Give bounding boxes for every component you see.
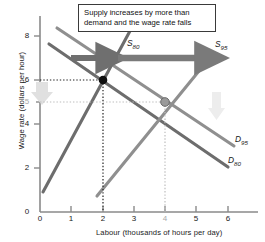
x-axis-title: Labour (thousands of hours per day) — [96, 228, 222, 237]
x-tick-label-3: 3 — [127, 214, 141, 223]
x-tick-label-4: 4 — [158, 214, 172, 223]
curve-label-D80-sub: 80 — [234, 160, 241, 167]
curve-label-S80: S80 — [127, 38, 139, 50]
initial-equilibrium-point — [99, 76, 108, 85]
x-tick-label-6: 6 — [221, 214, 235, 223]
curve-label-D95: D95 — [235, 134, 248, 146]
y-tick-label-0: 0 — [20, 207, 34, 216]
curve-label-S80-sub: 80 — [133, 43, 140, 50]
callout-line-2: demand and the wage rate falls — [84, 18, 211, 28]
callout-line-1: Supply increases by more than — [84, 8, 211, 18]
curve-label-S95-sub: 95 — [221, 44, 228, 51]
chart-plot-area — [0, 0, 265, 242]
x-tick-label-0: 0 — [33, 214, 47, 223]
new-equilibrium-point — [161, 98, 170, 107]
annotation-callout-box: Supply increases by more than demand and… — [78, 4, 216, 32]
curve-D80 — [49, 44, 228, 167]
curve-label-D95-sub: 95 — [241, 139, 248, 146]
curve-label-D80: D80 — [228, 155, 241, 167]
supply-demand-chart: 8 6 5 4 2 0 0 1 2 3 4 5 6 Wage rate (dol… — [0, 0, 265, 242]
wage-fall-arrow — [31, 82, 53, 105]
x-axis-ticks — [71, 206, 228, 212]
y-axis-ticks — [34, 36, 40, 168]
x-tick-label-1: 1 — [64, 214, 78, 223]
wage-fall-arrow-right — [208, 92, 225, 120]
x-tick-label-5: 5 — [189, 214, 203, 223]
y-axis-title: Wage rate (dollars per hour) — [17, 26, 26, 176]
curve-label-S95: S95 — [215, 39, 227, 51]
x-tick-label-2: 2 — [96, 214, 110, 223]
curve-D95 — [57, 28, 234, 146]
curve-S95 — [97, 55, 212, 196]
